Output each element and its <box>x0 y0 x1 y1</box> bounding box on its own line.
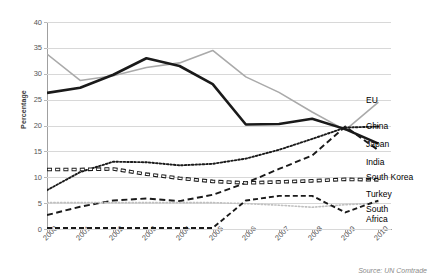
chart-figure: Percentage 0510152025303540 200020012002… <box>0 0 435 280</box>
y-axis-tick-label: 40 <box>20 18 42 27</box>
legend-label-china: China <box>366 121 388 131</box>
legend-label-south-korea: South Korea <box>366 172 413 182</box>
y-axis-tick-label: 25 <box>20 95 42 104</box>
y-axis-tick-label: 15 <box>20 147 42 156</box>
source-note: Source: UN Comtrade <box>358 267 427 274</box>
y-axis-tick-label: 30 <box>20 69 42 78</box>
legend-label-eu: EU <box>366 95 378 105</box>
series-line-south-korea-inner <box>47 169 378 183</box>
legend-label-south: South <box>366 204 388 214</box>
series-line-eu <box>47 50 378 130</box>
series-lines <box>47 22 391 229</box>
y-axis-tick-label: 0 <box>20 225 42 234</box>
series-line-china <box>47 58 378 143</box>
gridline <box>47 229 391 230</box>
y-axis-tick-label: 5 <box>20 199 42 208</box>
legend-label-india: India <box>366 157 384 167</box>
legend-label-africa: Africa <box>366 214 388 224</box>
y-axis-title: Percentage <box>20 80 27 140</box>
y-axis-tick-label: 10 <box>20 173 42 182</box>
series-line-south-africa <box>47 196 378 228</box>
legend-label-japan: Japan <box>366 139 389 149</box>
y-axis-tick-label: 20 <box>20 121 42 130</box>
y-axis-tick-label: 35 <box>20 43 42 52</box>
plot-area <box>47 22 391 229</box>
legend-label-turkey: Turkey <box>366 189 392 199</box>
